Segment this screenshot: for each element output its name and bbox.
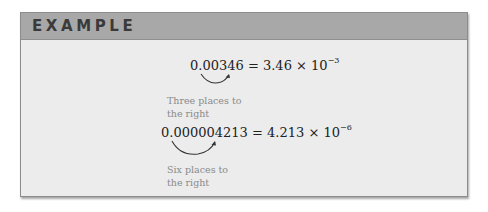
power-of-ten: 10−6	[323, 125, 351, 140]
example-title: EXAMPLE	[32, 17, 136, 35]
mantissa: 3.46	[263, 58, 292, 73]
example-box: EXAMPLE 0.00346 = 3.46 × 10−3 Three plac…	[20, 12, 468, 197]
decimal-value: 0.000004213	[161, 125, 248, 140]
note-1: Three places to the right	[167, 94, 241, 120]
note-2: Six places to the right	[167, 163, 228, 189]
mantissa: 4.213	[267, 125, 304, 140]
decimal-value: 0.00346	[190, 58, 244, 73]
example-header: EXAMPLE	[21, 13, 467, 40]
equation-1: 0.00346 = 3.46 × 10−3	[190, 58, 339, 73]
power-of-ten: 10−3	[311, 58, 339, 73]
curved-arrow-icon	[199, 73, 235, 87]
equation-2: 0.000004213 = 4.213 × 10−6	[161, 125, 352, 140]
curved-arrow-icon	[170, 140, 220, 158]
